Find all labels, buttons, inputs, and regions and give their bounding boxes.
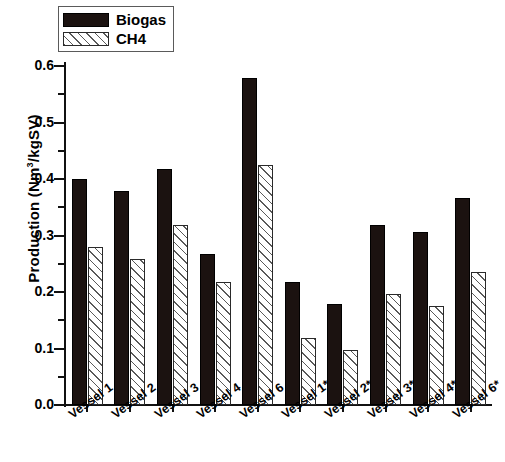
y-axis-tick-major [54, 178, 66, 180]
y-axis-tick-label: 0.4 [0, 171, 54, 185]
bar-biogas [242, 78, 257, 405]
y-axis-tick-label: 0.2 [0, 284, 54, 298]
legend-swatch-ch4 [63, 32, 109, 46]
plot-area [66, 66, 492, 405]
bar-biogas [114, 191, 129, 405]
bar-biogas [157, 169, 172, 405]
bar-biogas [72, 179, 87, 405]
y-axis-tick-major [54, 404, 66, 406]
bar-biogas [200, 254, 215, 405]
y-axis-tick-major [54, 235, 66, 237]
bar-biogas [285, 282, 300, 405]
y-axis-tick-minor [58, 263, 66, 265]
bar-biogas [370, 225, 385, 405]
y-axis-tick-minor [58, 319, 66, 321]
y-axis-tick-minor [58, 376, 66, 378]
bar-chart-figure: Biogas CH4 Production (Nm3/kgSV) 0.00.10… [0, 0, 505, 462]
y-axis-tick-minor [58, 150, 66, 152]
y-axis-tick-major [54, 348, 66, 350]
y-axis-tick-major [54, 122, 66, 124]
bar-ch4 [258, 165, 273, 405]
y-axis-tick-label: 0.3 [0, 228, 54, 242]
legend-swatch-biogas [63, 13, 109, 27]
legend-item-ch4: CH4 [63, 29, 166, 48]
legend-label-biogas: Biogas [116, 11, 166, 28]
y-axis-tick-minor [58, 206, 66, 208]
bar-biogas [455, 198, 470, 405]
bar-biogas [413, 232, 428, 405]
y-axis-tick-label: 0.5 [0, 115, 54, 129]
legend-item-biogas: Biogas [63, 10, 166, 29]
legend-label-ch4: CH4 [116, 30, 146, 47]
y-axis-tick-label: 0.0 [0, 397, 54, 411]
bar-ch4 [130, 259, 145, 405]
bar-ch4 [173, 225, 188, 405]
y-axis-tick-major [54, 291, 66, 293]
chart-legend: Biogas CH4 [58, 6, 174, 52]
bar-ch4 [88, 247, 103, 405]
y-axis-tick-major [54, 65, 66, 67]
y-axis-tick-minor [58, 93, 66, 95]
y-axis-tick-label: 0.6 [0, 58, 54, 72]
y-axis-title-exponent: 3 [25, 162, 35, 167]
y-axis-tick-label: 0.1 [0, 341, 54, 355]
